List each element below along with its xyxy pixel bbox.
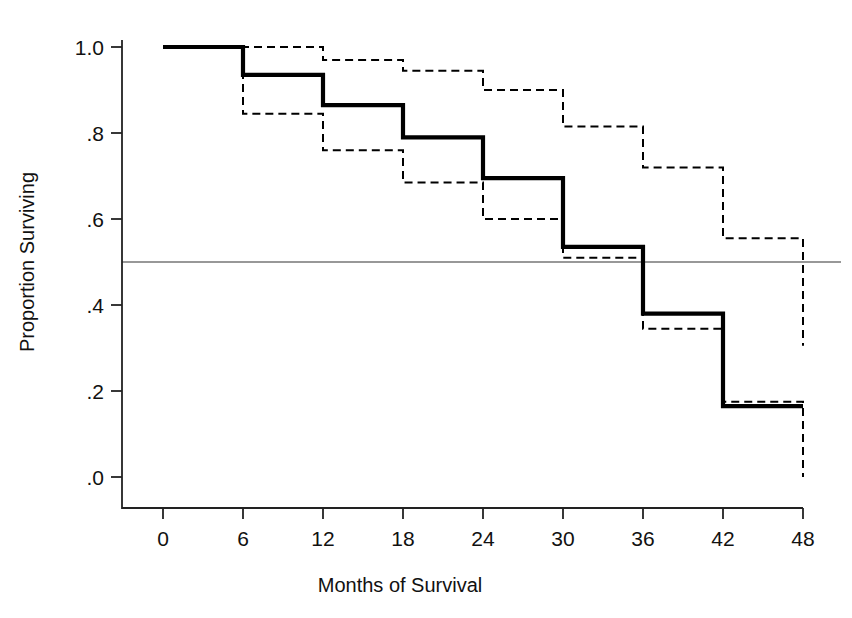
x-tick-label: 48 [791,527,814,550]
x-tick-label: 12 [311,527,334,550]
survival-chart-figure: 0612182430364248.0.2.4.6.81.0 Months of … [0,0,852,618]
y-tick-label: .2 [86,380,104,403]
survival-curve-layer [163,47,803,406]
kaplan-meier-plot: 0612182430364248.0.2.4.6.81.0 Months of … [0,0,852,618]
x-tick-label: 6 [237,527,249,550]
y-axis-title: Proportion Surviving [16,172,38,352]
x-tick-label: 42 [711,527,734,550]
y-tick-label: .8 [86,122,104,145]
y-tick-label: .6 [86,208,104,231]
x-tick-label: 0 [157,527,169,550]
x-tick-label: 24 [471,527,495,550]
x-tick-label: 36 [631,527,654,550]
x-axis-title: Months of Survival [318,574,483,596]
axis-spines [122,40,803,508]
tick-labels-layer: 0612182430364248.0.2.4.6.81.0 [75,36,815,550]
x-tick-label: 30 [551,527,574,550]
y-tick-label: 1.0 [75,36,104,59]
y-tick-label: .4 [86,294,104,317]
survival-step-line [163,47,803,406]
axes-layer [111,40,803,519]
x-tick-label: 18 [391,527,414,550]
y-tick-label: .0 [86,466,104,489]
